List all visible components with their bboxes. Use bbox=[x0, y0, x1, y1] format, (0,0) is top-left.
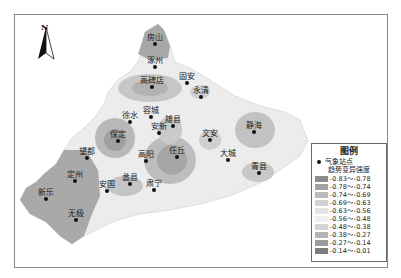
station-label: 雄县 bbox=[165, 115, 181, 124]
station-marker bbox=[208, 138, 212, 142]
station-label: 青县 bbox=[251, 162, 267, 171]
station-marker bbox=[252, 130, 256, 134]
station-label: 文安 bbox=[202, 129, 218, 138]
legend-range-label: -0.14～-0.01 bbox=[330, 247, 371, 255]
north-arrow-icon bbox=[36, 25, 56, 63]
station-marker bbox=[149, 115, 153, 119]
station-label: 大城 bbox=[220, 149, 236, 158]
legend-range-label: -0.48～-0.38 bbox=[330, 223, 371, 231]
station-label: 涿州 bbox=[147, 56, 163, 65]
station-marker bbox=[116, 139, 120, 143]
station-marker bbox=[44, 197, 48, 201]
legend: 图例 气象站点 趋势变异强度 -0.83～-0.78-0.78～-0.74-0.… bbox=[311, 143, 387, 262]
station-label: 新乐 bbox=[38, 188, 54, 197]
station-marker bbox=[175, 155, 179, 159]
station-marker bbox=[257, 171, 261, 175]
legend-range-label: -0.78～-0.74 bbox=[330, 183, 371, 191]
station-label: 安国 bbox=[99, 180, 115, 189]
station-label: 蠡县 bbox=[122, 173, 138, 182]
station-marker bbox=[152, 188, 156, 192]
station-marker bbox=[105, 189, 109, 193]
station-label: 永清 bbox=[193, 86, 209, 95]
station-label: 高阳 bbox=[138, 150, 154, 159]
legend-station-entry: 气象站点 bbox=[315, 158, 383, 166]
station-label: 房山 bbox=[147, 33, 163, 42]
station-marker bbox=[199, 95, 203, 99]
station-marker bbox=[144, 159, 148, 163]
station-marker bbox=[153, 65, 157, 69]
station-label: 定州 bbox=[67, 170, 83, 179]
legend-range-label: -0.83～-0.78 bbox=[330, 175, 371, 183]
station-label: 安新 bbox=[151, 122, 167, 131]
legend-class-row: -0.56～-0.48 bbox=[315, 215, 383, 223]
legend-title: 图例 bbox=[315, 146, 383, 157]
legend-class-row: -0.74～-0.69 bbox=[315, 191, 383, 199]
legend-range-label: -0.38～-0.27 bbox=[330, 231, 371, 239]
legend-swatch bbox=[315, 232, 328, 238]
station-marker bbox=[85, 156, 89, 160]
legend-swatch bbox=[315, 176, 328, 182]
legend-range-label: -0.27～-0.14 bbox=[330, 239, 371, 247]
station-marker bbox=[153, 42, 157, 46]
legend-class-row: -0.14～-0.01 bbox=[315, 247, 383, 255]
legend-range-label: -0.63～-0.56 bbox=[330, 207, 371, 215]
station-marker bbox=[185, 81, 189, 85]
station-marker bbox=[74, 218, 78, 222]
station-label: 容城 bbox=[143, 106, 159, 115]
legend-class-row: -0.27～-0.14 bbox=[315, 239, 383, 247]
legend-range-label: -0.74～-0.69 bbox=[330, 191, 371, 199]
legend-classes: -0.83～-0.78-0.78～-0.74-0.74～-0.69-0.69～-… bbox=[315, 175, 383, 255]
legend-swatch bbox=[315, 248, 328, 254]
legend-station-label: 气象站点 bbox=[325, 158, 353, 166]
station-label: 静海 bbox=[246, 121, 262, 130]
station-marker bbox=[226, 158, 230, 162]
legend-swatch bbox=[315, 240, 328, 246]
legend-swatch bbox=[315, 184, 328, 190]
station-label: 徐水 bbox=[122, 111, 138, 120]
legend-class-row: -0.69～-0.63 bbox=[315, 199, 383, 207]
station-dot-icon bbox=[317, 160, 321, 164]
station-label: 固安 bbox=[179, 72, 195, 81]
legend-class-row: -0.38～-0.27 bbox=[315, 231, 383, 239]
station-marker bbox=[73, 179, 77, 183]
station-label: 高碑店 bbox=[140, 76, 164, 85]
legend-range-label: -0.69～-0.63 bbox=[330, 199, 371, 207]
legend-swatch bbox=[315, 208, 328, 214]
station-label: 肃宁 bbox=[146, 179, 162, 188]
station-label: 无极 bbox=[68, 209, 84, 218]
legend-swatch bbox=[315, 216, 328, 222]
legend-range-label: -0.56～-0.48 bbox=[330, 215, 371, 223]
station-marker bbox=[171, 124, 175, 128]
station-marker bbox=[128, 120, 132, 124]
legend-class-row: -0.78～-0.74 bbox=[315, 183, 383, 191]
legend-swatch bbox=[315, 224, 328, 230]
legend-class-row: -0.48～-0.38 bbox=[315, 223, 383, 231]
station-marker bbox=[157, 131, 161, 135]
legend-class-row: -0.83～-0.78 bbox=[315, 175, 383, 183]
legend-swatch bbox=[315, 200, 328, 206]
legend-class-row: -0.63～-0.56 bbox=[315, 207, 383, 215]
station-label: 保定 bbox=[110, 130, 126, 139]
legend-swatch bbox=[315, 192, 328, 198]
station-marker bbox=[128, 182, 132, 186]
legend-subtitle: 趋势变异强度 bbox=[315, 166, 383, 174]
station-label: 望都 bbox=[79, 147, 95, 156]
station-marker bbox=[150, 85, 154, 89]
station-label: 任丘 bbox=[169, 146, 185, 155]
